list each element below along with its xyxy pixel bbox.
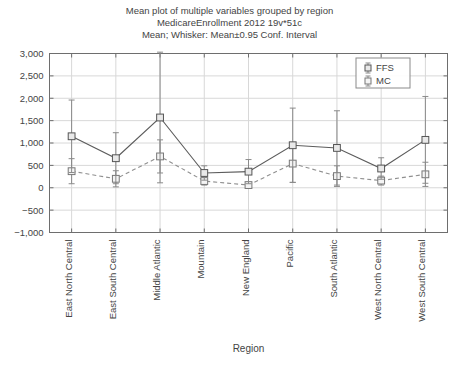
y-axis-tick-label: 3,000 <box>20 48 44 59</box>
chart-legend: FFSMC <box>356 58 410 88</box>
data-point-marker <box>201 170 208 177</box>
legend-marker <box>365 78 371 84</box>
y-axis-tick-label: 1,500 <box>20 115 44 126</box>
x-axis-tick-label: East South Central <box>107 240 118 320</box>
x-axis-tick-labels: East North CentralEast South CentralMidd… <box>63 239 428 321</box>
y-axis-tick-label: 2,500 <box>20 70 44 81</box>
y-axis-tick-label: 1,000 <box>20 137 44 148</box>
x-axis-tick-label: West South Central <box>416 240 427 322</box>
y-axis-tick-label: 2,000 <box>20 93 44 104</box>
data-point-marker <box>334 145 341 152</box>
x-axis-tick-label: Mountain <box>195 240 206 279</box>
y-axis-tick-label: 500 <box>28 160 44 171</box>
y-axis-tick-label: −1,000 <box>14 227 43 238</box>
y-axis-tick-label: 0 <box>38 182 43 193</box>
legend-entry-label: MC <box>376 75 391 86</box>
x-axis-tick-label: Middle Atlantic <box>151 239 162 301</box>
chart-canvas: 3,0002,5002,0001,5001,0005000−500−1,000 … <box>0 0 459 370</box>
data-point-marker <box>68 133 75 140</box>
data-point-marker <box>112 155 119 162</box>
data-point-marker <box>245 168 252 175</box>
data-point-marker <box>157 114 164 121</box>
data-point-marker <box>378 165 385 172</box>
data-point-marker <box>289 142 296 149</box>
mean-plot-chart: Mean plot of multiple variables grouped … <box>0 0 459 370</box>
data-point-marker <box>422 136 429 143</box>
y-axis-tick-labels: 3,0002,5002,0001,5001,0005000−500−1,000 <box>14 48 43 238</box>
x-axis-tick-label: Pacific <box>284 239 295 267</box>
x-axis-title: Region <box>233 343 265 354</box>
y-axis-tick-label: −500 <box>22 205 43 216</box>
legend-marker <box>365 65 371 71</box>
legend-entry-label: FFS <box>376 62 394 73</box>
x-axis-tick-label: East North Central <box>63 240 74 318</box>
x-axis-tick-label: New England <box>240 240 251 297</box>
x-axis-tick-label: West North Central <box>372 240 383 321</box>
x-axis-tick-label: South Atlantic <box>328 239 339 297</box>
